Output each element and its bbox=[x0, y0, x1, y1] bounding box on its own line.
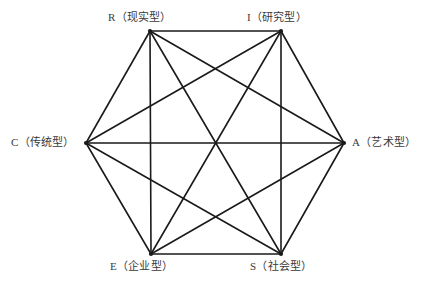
vertex-dot-r bbox=[148, 29, 152, 33]
vertex-dot-a bbox=[342, 141, 346, 145]
vertex-label-e: E（企业型） bbox=[110, 260, 173, 273]
hexagon-edge bbox=[86, 31, 150, 143]
hexagon-edge bbox=[86, 31, 281, 143]
vertex-dot-s bbox=[279, 252, 283, 256]
hexagon-edge bbox=[151, 143, 344, 254]
hexagon-figure: R（现实型） I（研究型） A（艺术型） S（社会型） E（企业型） C（传统型… bbox=[0, 0, 423, 288]
edge-layer bbox=[86, 31, 344, 254]
hexagon-edge bbox=[281, 31, 344, 143]
hexagon-edge bbox=[86, 143, 281, 254]
vertex-label-c: C（传统型） bbox=[11, 136, 75, 149]
vertex-label-r: R（现实型） bbox=[108, 11, 172, 24]
hexagon-edge bbox=[281, 143, 344, 254]
vertex-dot-i bbox=[279, 29, 283, 33]
vertex-dot-e bbox=[149, 252, 153, 256]
vertex-label-i: I（研究型） bbox=[247, 11, 307, 24]
vertex-dot-c bbox=[84, 141, 88, 145]
vertex-label-a: A（艺术型） bbox=[352, 136, 416, 149]
vertex-label-s: S（社会型） bbox=[250, 260, 312, 273]
hexagon-edge bbox=[150, 31, 344, 143]
hexagon-edge bbox=[86, 143, 151, 254]
